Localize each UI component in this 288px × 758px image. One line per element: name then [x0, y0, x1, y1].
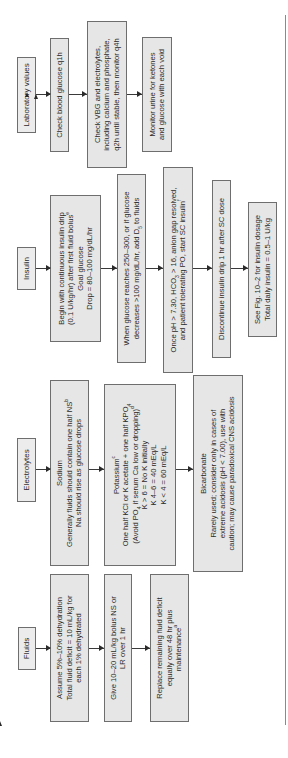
step-text: caution; may cause paradoxical CNS acido…: [227, 396, 236, 550]
step-text: and glucose with each void: [157, 49, 166, 140]
footnote-marker: b: [63, 399, 69, 402]
step-text: Check blood glucose q1h: [55, 52, 64, 137]
subscript: 5: [136, 226, 142, 229]
step-text: extreme acidosis (pH < 7.00), use with: [218, 409, 227, 538]
insulin-header: Insulin: [17, 247, 36, 290]
insulin-step-begin-drip: Begin with continuous insulin drip (0.1 …: [50, 195, 101, 342]
footnote-marker: c: [110, 456, 116, 459]
step-text: K 4–6 = 40 mEq/L: [149, 445, 158, 506]
insulin-step-discontinue: Discontinue insulin drip 1 hr after SC d…: [212, 180, 231, 358]
step-text: q2h until stable, then monitor q4h: [112, 38, 121, 150]
step-text: K < 4 = 60 mEq/L: [159, 445, 168, 504]
insulin-step-see-fig: See Fig. 10–2 for insulin dosage Total d…: [248, 202, 277, 337]
insulin-label: Insulin: [22, 257, 31, 280]
electrolytes-step-sodium: Sodium Generally fluids should contain o…: [50, 380, 89, 566]
step-title: Potassium: [112, 459, 121, 494]
lab-step-vbg: Check VBG and electrolytes, including ca…: [87, 21, 127, 168]
step-text: including calcium and phosphate,: [102, 38, 111, 150]
footnote-marker: e: [65, 212, 71, 215]
dka-management-flowchart: Laboratory values Check blood glucose q1…: [0, 0, 288, 758]
arrowhead-icon: [82, 92, 87, 98]
arrowhead-icon: [158, 266, 163, 272]
step-text: Total daily insulin = 0.5–1 U/kg: [263, 218, 272, 321]
step-text: if serum Ca low or dropping): [131, 409, 140, 507]
arrowhead-icon: [99, 646, 104, 652]
lab-step-monitor-urine: Monitor urine for ketones and glucose wi…: [142, 37, 172, 152]
step-text: decreases >100 mg/dL/hr, add D: [132, 229, 141, 339]
page-edge-divider: [285, 15, 286, 725]
arrowhead-icon: [112, 266, 117, 272]
step-text: Na should rise as glucose drops: [74, 419, 83, 527]
step-title: Bicarbonate: [199, 453, 208, 494]
step-text: Check VBG and electrolytes,: [93, 46, 102, 143]
step-text: (Avoid PO: [131, 509, 140, 543]
arrowhead-icon: [188, 467, 193, 473]
electrolytes-header: Electrolytes: [17, 438, 36, 502]
step-text: Begin with continuous insulin drip: [57, 212, 66, 324]
step-text: LR over 1 hr: [118, 627, 127, 669]
insulin-step-add-d5: When glucose reaches 250–300, or if gluc…: [117, 174, 146, 363]
footnote-marker: a: [173, 625, 179, 628]
step-text: Once pH > 7.30, HCO: [169, 278, 178, 353]
step-text: Goal glucose: [76, 246, 85, 290]
step-text: each 1% dehydrated: [74, 613, 83, 683]
step-text: Rarely used; consider only in cases of: [209, 410, 218, 538]
arrowhead-icon: [137, 92, 142, 98]
step-text: Drop = 80–100 mg/dL/hr: [85, 227, 94, 310]
arrowhead-icon: [99, 467, 104, 473]
step-text: Give 10–20 mL/kg bolus NS or: [109, 596, 118, 699]
fluids-label: Fluids: [22, 638, 31, 659]
step-text: to fluids: [132, 198, 141, 226]
electrolytes-step-bicarbonate: Bicarbonate Rarely used; consider only i…: [193, 375, 243, 572]
step-text: maintenance: [174, 628, 183, 671]
step-text: K > 6 = No K initially: [140, 441, 149, 509]
step-text: One half KCl or K acetate + one half KPO: [121, 406, 130, 546]
step-text: (0.1 U/kg/hr) after first fluid bolus: [66, 215, 75, 325]
arrowhead-icon: [46, 92, 51, 98]
arrowhead-icon: [243, 266, 248, 272]
fluids-step-replace-deficit: Replace remaining fluid deficit equally …: [150, 574, 189, 722]
step-text: Monitor urine for ketones: [148, 53, 157, 137]
fluids-step-give-bolus: Give 10–20 mL/kg bolus NS or LR over 1 h…: [104, 574, 132, 722]
arrowhead-icon: [207, 266, 212, 272]
step-text: See Fig. 10–2 for insulin dosage: [253, 215, 262, 324]
electrolytes-label: Electrolytes: [22, 449, 31, 490]
step-text: Total fluid deficit = 10 mL/kg for: [65, 596, 74, 701]
arrowhead-icon: [145, 646, 150, 652]
arrowhead-icon: [46, 646, 51, 652]
step-text: Assume 5%–10% dehydration: [55, 597, 64, 699]
step-text: Replace remaining fluid deficit: [155, 597, 164, 698]
fluids-header: Fluids: [18, 627, 36, 670]
step-text: Generally fluids should contain one half…: [65, 402, 74, 547]
lab-step-blood-glucose: Check blood glucose q1h: [50, 38, 69, 152]
fluids-step-assume-dehydration: Assume 5%–10% dehydration Total fluid de…: [50, 574, 89, 722]
arrowhead-icon: [46, 467, 51, 473]
insulin-step-start-sc: Once pH > 7.30, HCO3 > 16, anion gap res…: [163, 167, 193, 373]
electrolytes-step-potassium: Potassiumc One half KCl or K acetate + o…: [104, 384, 176, 566]
arrowhead-icon: [46, 266, 51, 272]
step-text: When glucose reaches 250–300, or if gluc…: [122, 191, 131, 345]
step-text: and patient tolerating PO, start SC insu…: [178, 201, 187, 340]
step-text: Discontinue insulin drip 1 hr after SC d…: [217, 198, 226, 340]
footnote-marker: f: [176, 200, 182, 201]
footnote-marker: d: [129, 406, 135, 409]
step-text: equally over 48 hr plus: [165, 610, 174, 686]
step-title: Sodium: [55, 460, 64, 486]
